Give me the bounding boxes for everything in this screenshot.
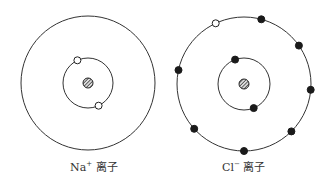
- ion-diagram: [0, 0, 332, 188]
- na-symbol: Na: [70, 161, 86, 174]
- cl-electron-filled: [250, 105, 257, 112]
- na-label-suffix: 离子: [92, 161, 118, 174]
- cl-symbol: Cl: [222, 161, 234, 174]
- cl-electron-filled: [241, 148, 248, 155]
- cl-electron-filled: [191, 125, 198, 132]
- cl-electron-filled: [175, 67, 182, 74]
- na-nucleus: [83, 78, 93, 88]
- cl-ion-label: Cl− 离子: [222, 158, 265, 174]
- na-ion-model: [21, 16, 155, 150]
- cl-label-suffix: 离子: [240, 161, 266, 174]
- cl-electron-hollow: [212, 20, 219, 27]
- cl-ion-model: [175, 16, 314, 155]
- cl-electron-filled: [288, 128, 295, 135]
- cl-electron-filled: [258, 16, 265, 23]
- cl-nucleus: [239, 79, 249, 89]
- na-ion-label: Na+ 离子: [70, 158, 118, 174]
- cl-electron-filled: [295, 42, 302, 49]
- cl-electron-filled: [307, 86, 314, 93]
- na-electron-hollow: [74, 57, 81, 64]
- cl-electron-filled: [232, 56, 239, 63]
- na-electron-hollow: [95, 102, 102, 109]
